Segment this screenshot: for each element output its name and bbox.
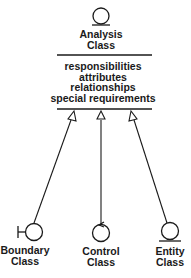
entity-class-name-line2: Class [156, 256, 184, 268]
class-diagram: Analysis Class responsibilities attribut… [0, 0, 191, 278]
analysis-class-icon [92, 8, 110, 25]
analysis-class-name-line2: Class [87, 39, 115, 51]
compartment-item-special-requirements: special requirements [50, 92, 155, 104]
control-class-icon [93, 222, 110, 242]
boundary-class-icon [18, 224, 43, 241]
generalization-arrow-control [97, 111, 105, 225]
entity-class-icon [159, 223, 181, 242]
generalization-arrow-entity [129, 111, 167, 223]
control-class-name-line2: Class [87, 256, 115, 268]
boundary-class-name-line2: Class [11, 255, 39, 267]
generalization-arrow-boundary [34, 111, 76, 223]
